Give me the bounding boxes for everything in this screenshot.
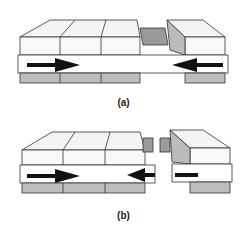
arrow-stub-icon [175,173,198,177]
caption-a: (a) [0,97,247,108]
panel-a: (a) [0,0,247,118]
caption-b: (b) [0,210,247,221]
panel-b: (b) [0,118,247,236]
